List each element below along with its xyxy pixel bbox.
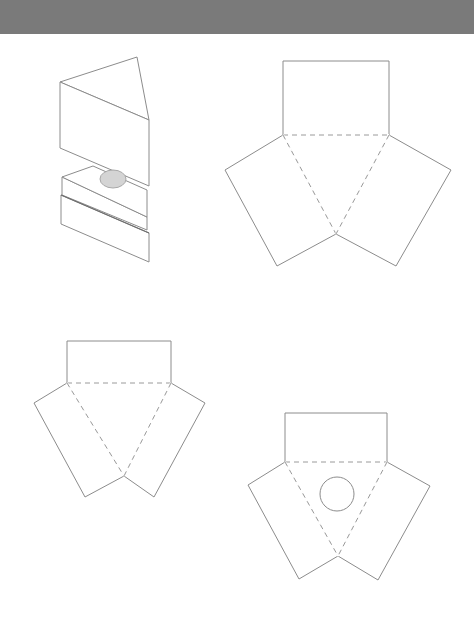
- net-left-face: [225, 135, 336, 266]
- net-right-face: [124, 383, 205, 497]
- prism-net-large: [225, 61, 451, 266]
- diagram-svg: [0, 0, 474, 618]
- net-rectangle-face: [283, 61, 389, 135]
- exploded-prism-figure: [60, 57, 149, 262]
- net-rectangle-face: [285, 413, 387, 462]
- diagram-canvas: [0, 0, 474, 618]
- hole-circle: [320, 477, 354, 511]
- net-right-face: [338, 462, 430, 580]
- fold-line-mask: [124, 383, 171, 476]
- prism-net-with-hole: [248, 413, 430, 580]
- net-left-face: [248, 462, 338, 579]
- net-rectangle-face: [67, 341, 171, 383]
- hole-ellipse: [100, 170, 126, 188]
- net-left-face: [34, 383, 124, 497]
- prism-net-small: [34, 341, 205, 497]
